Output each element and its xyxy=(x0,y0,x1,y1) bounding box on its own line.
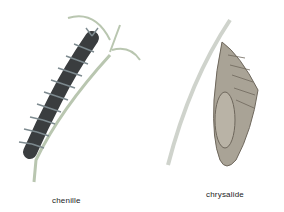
chrysalis-label: chrysalide xyxy=(206,190,244,199)
caterpillar xyxy=(19,28,98,152)
illustration xyxy=(0,0,284,212)
caterpillar-label: chenille xyxy=(52,196,81,205)
chrysalis xyxy=(214,42,258,166)
